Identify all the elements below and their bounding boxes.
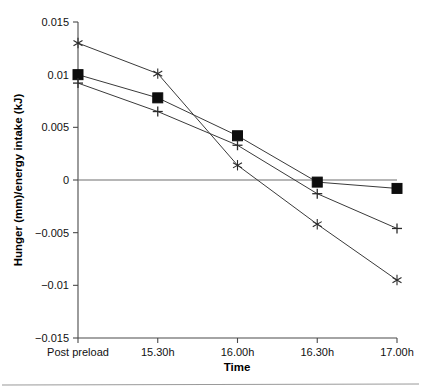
x-tick-label: 15.30h: [141, 346, 175, 358]
y-tick-label: 0.015: [41, 16, 69, 28]
x-tick-label: 16.00h: [221, 346, 255, 358]
data-point-square: [233, 131, 243, 141]
x-tick-label: Post preload: [47, 346, 109, 358]
x-tick-label: 17.00h: [380, 346, 414, 358]
line-chart-svg: 0.0150.010.0050−0.005−0.01−0.015 Post pr…: [0, 0, 421, 392]
data-point-square: [392, 183, 402, 193]
y-tick-label: −0.01: [41, 279, 69, 291]
y-tick-label: 0.005: [41, 121, 69, 133]
y-tick-label: −0.015: [35, 332, 69, 344]
data-point-square: [153, 93, 163, 103]
y-tick-label: 0: [63, 174, 69, 186]
x-tick-label: 16.30h: [300, 346, 334, 358]
y-tick-label: 0.01: [48, 69, 69, 81]
data-point-square: [312, 177, 322, 187]
x-axis-title: Time: [224, 361, 251, 373]
y-tick-label: −0.005: [35, 227, 69, 239]
y-axis-title: Hunger (mm)/energy intake (kJ): [12, 94, 24, 267]
chart-figure: 0.0150.010.0050−0.005−0.01−0.015 Post pr…: [0, 0, 421, 392]
